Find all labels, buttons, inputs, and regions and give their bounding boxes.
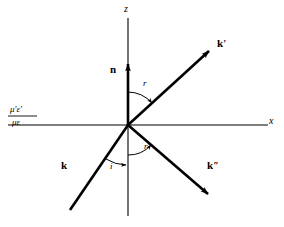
refracted-vector-label-k-double-prime: k″ — [207, 160, 219, 171]
angle-arc-r — [128, 92, 152, 103]
k-prime-mark: ′ — [223, 38, 226, 49]
angle-arc-i — [106, 159, 126, 165]
angle-label-r: r — [143, 79, 147, 88]
reflected-vector-label-k-prime: k′ — [217, 38, 226, 49]
optics-reflection-refraction-figure: z x n k k′ k″ r r′ i μ'ε' με — [0, 0, 284, 227]
media-label-lower: με — [11, 117, 21, 127]
angle-label-r-prime: r′ — [144, 142, 149, 151]
x-axis-label: x — [269, 116, 273, 126]
reflected-ray-k-prime — [128, 51, 209, 125]
z-axis-label: z — [124, 4, 128, 14]
k-double-prime-mark: ″ — [213, 160, 219, 171]
incident-vector-label-k: k — [61, 160, 67, 171]
angle-label-i: i — [110, 162, 113, 171]
normal-vector-label-n: n — [110, 64, 116, 75]
incident-ray-k — [70, 125, 128, 210]
media-label-upper: μ'ε' — [9, 105, 23, 115]
figure-canvas — [0, 0, 284, 227]
refracted-ray-k-double-prime — [128, 125, 208, 194]
